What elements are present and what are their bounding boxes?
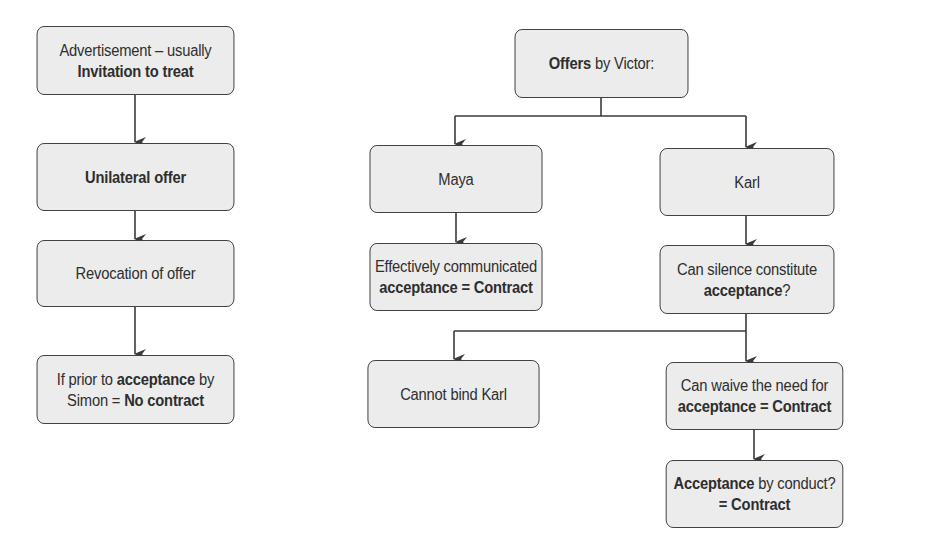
silence-line1: Can silence constitute (677, 259, 817, 280)
conduct-line1: Acceptance by conduct? (673, 473, 835, 494)
prior-text-d: Simon = (67, 392, 124, 409)
effective-line2: acceptance = Contract (379, 277, 533, 298)
karl-box: Karl (660, 148, 835, 216)
cannot-bind-label: Cannot bind Karl (400, 384, 507, 405)
prior-text-a: If prior to (57, 371, 117, 388)
prior-line2: Simon = No contract (67, 390, 204, 411)
victor-offers-box: Offers by Victor: (515, 29, 689, 98)
unilateral-offer-box: Unilateral offer (37, 143, 235, 211)
karl-label: Karl (734, 172, 759, 193)
cannot-bind-box: Cannot bind Karl (367, 360, 539, 428)
silence-qmark: ? (782, 282, 790, 299)
conduct-text: by conduct? (754, 475, 835, 492)
maya-label: Maya (438, 169, 473, 190)
prior-line1: If prior to acceptance by (57, 369, 214, 390)
silence-bold: acceptance (704, 282, 782, 299)
victor-line: Offers by Victor: (549, 53, 654, 74)
conduct-bold: Acceptance (673, 475, 754, 492)
prior-text-b: acceptance (117, 371, 195, 388)
conduct-line2: = Contract (719, 494, 790, 515)
effective-acceptance-box: Effectively communicated acceptance = Co… (370, 243, 543, 311)
prior-acceptance-box: If prior to acceptance by Simon = No con… (37, 355, 235, 424)
prior-text-e: No contract (124, 392, 204, 409)
victor-text: by Victor: (591, 55, 654, 72)
waive-line1: Can waive the need for (681, 375, 828, 396)
maya-box: Maya (370, 145, 543, 213)
effective-line1: Effectively communicated (375, 256, 537, 277)
advertisement-line2: Invitation to treat (78, 61, 194, 82)
prior-text-c: by (195, 371, 214, 388)
advertisement-line1: Advertisement – usually (59, 40, 211, 61)
conduct-box: Acceptance by conduct? = Contract (666, 460, 844, 528)
waive-line2: acceptance = Contract (678, 396, 832, 417)
revocation-label: Revocation of offer (76, 263, 196, 284)
silence-line2: acceptance? (704, 280, 790, 301)
advertisement-box: Advertisement – usually Invitation to tr… (37, 26, 235, 95)
waive-box: Can waive the need for acceptance = Cont… (666, 362, 844, 430)
revocation-box: Revocation of offer (37, 240, 235, 307)
victor-bold: Offers (549, 55, 591, 72)
unilateral-offer-label: Unilateral offer (85, 167, 186, 188)
silence-box: Can silence constitute acceptance? (660, 245, 835, 314)
